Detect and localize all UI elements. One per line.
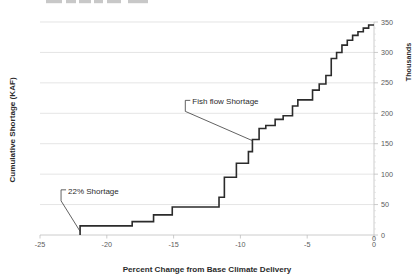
secondary-axis-title: Thousands [404, 43, 413, 81]
x-tick-label--15: -15 [168, 240, 178, 249]
cropped-title-fragment [107, 0, 121, 3]
y-axis-title: Cumulative Shortage (KAF) [8, 77, 17, 183]
cropped-title-fragment [128, 0, 148, 3]
chart-background [0, 0, 420, 278]
x-tick-label--5: -5 [304, 240, 310, 249]
cropped-title-fragment [66, 0, 76, 3]
x-tick-label--25: -25 [35, 240, 45, 249]
chart-container: -25-20-15-10-50 050100150200250300350 22… [0, 0, 420, 278]
cropped-title-fragment [94, 0, 103, 3]
x-axis-title: Percent Change from Base Climate Deliver… [123, 265, 292, 274]
cropped-title-fragment [46, 0, 62, 3]
y-tick-label-50: 50 [381, 200, 389, 209]
y-tick-label-350: 350 [381, 18, 393, 27]
y-tick-label-150: 150 [381, 139, 393, 148]
x-axis-origin-label: 0 [372, 234, 376, 243]
chart-title-cropped [46, 0, 148, 3]
x-tick-label--20: -20 [102, 240, 112, 249]
y-tick-label-100: 100 [381, 170, 393, 179]
annotation-label-1: Fish flow Shortage [192, 97, 259, 106]
cumulative-shortage-chart: -25-20-15-10-50 050100150200250300350 22… [0, 0, 420, 278]
annotation-label-0: 22% Shortage [68, 187, 119, 196]
y-tick-label-300: 300 [381, 48, 393, 57]
x-tick-label--10: -10 [235, 240, 245, 249]
y-tick-label-0: 0 [381, 231, 385, 240]
y-tick-label-200: 200 [381, 109, 393, 118]
cropped-title-fragment [79, 0, 91, 3]
y-tick-label-250: 250 [381, 78, 393, 87]
